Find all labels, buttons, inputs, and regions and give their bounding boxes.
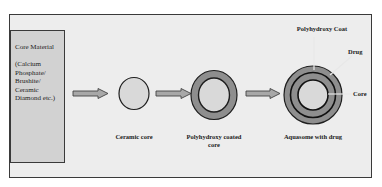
label-line: core <box>182 141 246 149</box>
ceramic-core-label: Ceramic core <box>104 133 164 141</box>
polyhydroxy-coated-core-label: Polyhydroxy coated core <box>182 133 246 149</box>
ceramic-core-shape <box>119 78 149 110</box>
aquasome-with-drug-label: Aquasome with drug <box>276 133 350 141</box>
polyhydroxy-coated-core-shape <box>191 71 237 120</box>
label-line: Polyhydroxy coated <box>182 133 246 141</box>
polyhydroxy-coat-label: Polyhydroxy Coat <box>290 25 354 33</box>
arrow-right-icon <box>73 89 108 99</box>
drug-label: Drug <box>348 48 368 56</box>
arrow-right-icon <box>246 89 280 99</box>
aquasome-shape <box>284 66 342 124</box>
core-label: Core <box>353 90 371 98</box>
arrow-right-icon <box>156 89 191 99</box>
